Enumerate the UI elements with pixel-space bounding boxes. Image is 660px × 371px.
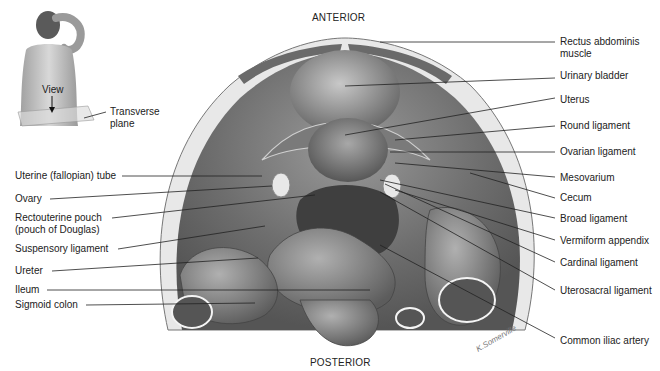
label-ovarian-ligament: Ovarian ligament [560,146,636,158]
label-ovary: Ovary [15,193,42,205]
anterior-label: ANTERIOR [312,12,365,23]
label-uterus: Uterus [560,94,589,106]
label-uterosacral-ligament: Uterosacral ligament [560,285,652,297]
posterior-label: POSTERIOR [310,357,371,368]
label-rectouterine-pouch: Rectouterine pouch [15,212,102,224]
label-rectus-abdominis: Rectus abdominis [560,36,639,48]
view-label: View [42,84,64,96]
label-broad-ligament: Broad ligament [560,213,627,225]
label-vermiform-appendix: Vermiform appendix [560,235,649,247]
label-cecum: Cecum [560,192,592,204]
transverse-plane-label-1: Transverse [110,106,160,118]
label-sigmoid-colon: Sigmoid colon [15,299,78,311]
label-cardinal-ligament: Cardinal ligament [560,257,638,269]
label-urinary-bladder: Urinary bladder [560,70,628,82]
label-suspensory-ligament: Suspensory ligament [15,243,108,255]
label-uterine-tube: Uterine (fallopian) tube [15,170,116,182]
label-rectus-abdominis-muscle: muscle [560,48,592,60]
label-ileum: Ileum [15,284,39,296]
label-pouch-of-douglas: (pouch of Douglas) [15,224,100,236]
label-common-iliac-artery: Common iliac artery [560,335,649,347]
transverse-plane-label-2: plane [110,118,134,130]
label-mesovarium: Mesovarium [560,172,614,184]
label-ureter: Ureter [15,265,43,277]
label-round-ligament: Round ligament [560,120,630,132]
